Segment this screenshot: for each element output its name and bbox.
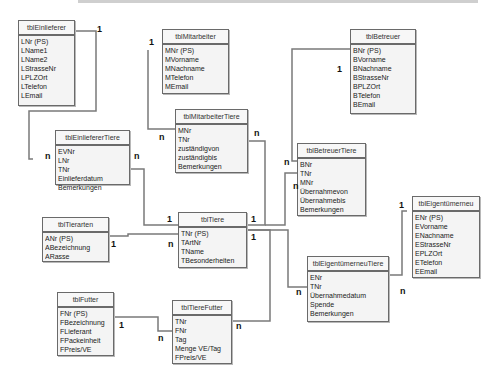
field: Bemerkungen: [300, 205, 363, 214]
field: MVorname: [165, 55, 226, 64]
cardinality-label: 1: [337, 64, 342, 74]
cardinality-label: 1: [167, 214, 172, 224]
table-einliefererTiere[interactable]: tblEinliefererTiere EVNr LNr TNr Einlief…: [55, 130, 130, 185]
field: MNachname: [165, 64, 226, 73]
field: MNr: [300, 178, 363, 187]
field: Übernahmedatum: [310, 291, 386, 300]
field: Übernahmevon: [300, 187, 363, 196]
field: TNr (PS): [181, 229, 244, 238]
table-eigentuemerneu[interactable]: tblEigentümerneu ENr (PS) EVorname ENach…: [412, 196, 480, 278]
field: BPLZOrt: [353, 82, 413, 91]
field: FNr: [175, 326, 229, 335]
field: FPreis/VE: [175, 353, 229, 362]
table-mitarbeiter[interactable]: tblMitarbeiter MNr (PS) MVorname MNachna…: [162, 29, 229, 94]
table-einlieferer[interactable]: tblEinlieferer LNr (PS) LName1 LName2 LS…: [18, 20, 75, 106]
field: LEmail: [21, 91, 72, 100]
field: MTelefon: [165, 73, 226, 82]
field: Einlieferdatum: [58, 174, 127, 183]
field: ETelefon: [415, 258, 477, 267]
cardinality-label: 1: [119, 320, 124, 330]
field: TBesonderheiten: [181, 256, 244, 265]
field: Bemerkungen: [178, 162, 245, 171]
cardinality-label: 1: [251, 214, 256, 224]
field: ENr: [310, 273, 386, 282]
field: LTelefon: [21, 82, 72, 91]
table-title: tblTiere: [179, 213, 246, 228]
table-betreuer[interactable]: tblBetreuer BNr (PS) BVorname BNachname …: [350, 29, 416, 114]
field: Spende: [310, 300, 386, 309]
table-title: tblEinlieferer: [19, 21, 74, 36]
field: BVorname: [353, 55, 413, 64]
field: BNachname: [353, 64, 413, 73]
table-tierarten[interactable]: tblTierarten ANr (PS) ABezeichnung ARass…: [42, 217, 109, 262]
field: MEmail: [165, 82, 226, 91]
field: LNr (PS): [21, 37, 72, 46]
cardinality-label: n: [159, 132, 165, 142]
rel-tierarten-tiere: [102, 234, 178, 236]
cardinality-label: 1: [399, 200, 404, 210]
table-title: tblEinliefererTiere: [56, 131, 129, 146]
table-eigentuemerneuTiere[interactable]: tblEigentümerneuTiere ENr TNr Übernahmed…: [307, 256, 389, 322]
cardinality-label: n: [134, 151, 140, 161]
table-mitarbeiterTiere[interactable]: tblMitarbeiterTiere MNr TNr zuständigvon…: [175, 109, 248, 173]
field: TNr: [310, 282, 386, 291]
table-title: tblTierarten: [43, 218, 108, 233]
table-title: tblFutter: [58, 293, 113, 308]
field: TNr: [300, 169, 363, 178]
cardinality-label: n: [400, 286, 406, 296]
field: BNr: [300, 160, 363, 169]
field: ANr (PS): [45, 234, 106, 243]
field: Bemerkungen: [58, 183, 127, 192]
field: FPreis/VE: [60, 345, 111, 354]
field: Bemerkungen: [310, 309, 386, 318]
field: ENr (PS): [415, 213, 477, 222]
table-title: tblBetreuer: [351, 30, 415, 45]
field: Übernahmebis: [300, 196, 363, 205]
field: BNr (PS): [353, 46, 413, 55]
cardinality-label: n: [236, 321, 242, 331]
field: TName: [181, 247, 244, 256]
field: BTelefon: [353, 91, 413, 100]
field: ARasse: [45, 252, 106, 261]
cardinality-label: n: [168, 239, 174, 249]
cardinality-label: n: [296, 287, 302, 297]
field: EEmail: [415, 267, 477, 276]
field: MNr: [178, 126, 245, 135]
table-tiere[interactable]: tblTiere TNr (PS) TArtNr TName TBesonder…: [178, 212, 247, 268]
cardinality-label: n: [158, 333, 164, 343]
field: TNr: [178, 135, 245, 144]
field: ABezeichnung: [45, 243, 106, 252]
field: BEmail: [353, 100, 413, 109]
field: LStrasseNr: [21, 64, 72, 73]
field: Tag: [175, 335, 229, 344]
table-futter[interactable]: tblFutter FNr (PS) FBezeichnung FLiefera…: [57, 292, 114, 356]
field: FBezeichnung: [60, 318, 111, 327]
field: TNr: [58, 165, 127, 174]
field: LName2: [21, 55, 72, 64]
cardinality-label: n: [284, 157, 290, 167]
cardinality-label: n: [293, 181, 299, 191]
field: BStrasseNr: [353, 73, 413, 82]
table-betreuerTiere[interactable]: tblBetreuerTiere BNr TNr MNr Übernahmevo…: [297, 143, 366, 216]
table-title: tblEigentümerneuTiere: [308, 257, 388, 272]
field: TArtNr: [181, 238, 244, 247]
field: LNr: [58, 156, 127, 165]
table-title: tblMitarbeiter: [163, 30, 228, 45]
field: EVNr: [58, 147, 127, 156]
cardinality-label: n: [254, 128, 260, 138]
field: FLieferant: [60, 327, 111, 336]
cardinality-label: 1: [111, 239, 116, 249]
cardinality-label: 1: [97, 24, 102, 34]
field: LPLZOrt: [21, 73, 72, 82]
cardinality-label: 1: [149, 37, 154, 47]
table-title: tblTiereFutter: [173, 301, 231, 316]
cardinality-label: n: [45, 151, 51, 161]
field: EStrasseNr: [415, 240, 477, 249]
field: FPackeinheit: [60, 336, 111, 345]
field: TNr: [175, 317, 229, 326]
field: MNr (PS): [165, 46, 226, 55]
table-tiereFutter[interactable]: tblTiereFutter TNr FNr Tag Menge VE/Tag …: [172, 300, 232, 364]
table-title: tblEigentümerneu: [413, 197, 479, 212]
field: ENachname: [415, 231, 477, 240]
field: zuständigbis: [178, 153, 245, 162]
